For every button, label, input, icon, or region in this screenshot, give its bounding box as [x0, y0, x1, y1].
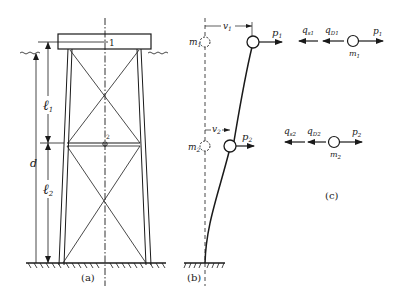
panel-c-label: (c) [325, 190, 339, 201]
mass-m2-fbd [329, 137, 340, 148]
m2-label-b: m2 [188, 142, 201, 153]
node-2-label: 2 [106, 133, 110, 140]
upper-brace-2 [68, 50, 139, 143]
lower-brace-2 [63, 146, 140, 263]
leg-right-inner [141, 49, 151, 265]
dim-l2-arrow-top [45, 143, 51, 150]
leg-left-outer [59, 49, 68, 265]
p1-label-c: p1 [373, 26, 382, 37]
p2-label-c: p2 [352, 127, 362, 138]
panel-c-free-body: qs1 qD1 m1 p1 qs2 qD2 m2 p2 (c) [284, 25, 383, 201]
mass-m2-undeformed [200, 141, 210, 151]
dim-d-label: d [30, 157, 37, 170]
mass-m1-displaced [247, 36, 259, 48]
p1-label-b: p1 [272, 27, 282, 39]
p2-label-b: p2 [242, 131, 252, 143]
panel-b-label: (b) [187, 272, 201, 283]
panel-a-label: (a) [81, 272, 95, 283]
m1-label-b: m1 [189, 37, 201, 48]
ground-hatching-b [184, 263, 224, 268]
dim-l2-arrow-bottom [45, 256, 51, 263]
leg-right-outer [137, 49, 146, 265]
water-line-left [20, 52, 40, 54]
structural-dynamics-figure: 1 2 [0, 0, 399, 286]
figure-canvas: 1 2 [0, 0, 399, 286]
deflected-shape [205, 47, 252, 263]
panel-b-lumped-model: m1 m2 v1 v2 p1 p2 (b) [184, 18, 282, 286]
dim-v2-arrow [224, 128, 230, 132]
dim-l1-arrow-bottom [45, 136, 51, 143]
free-body-m2: qs2 qD2 m2 p2 [284, 126, 362, 160]
upper-brace-1 [70, 50, 140, 143]
dim-v1-arrow [246, 24, 252, 28]
qd1-label: qD1 [325, 25, 339, 36]
mass-m2-displaced [224, 140, 236, 152]
qs1-label: qs1 [302, 25, 314, 36]
deck [58, 34, 151, 49]
m2-label-c: m2 [330, 150, 342, 160]
lower-brace-1 [67, 146, 146, 263]
qd2-label: qD2 [307, 126, 321, 137]
m1-label-c: m1 [349, 49, 360, 59]
panel-a-jacket-platform: 1 2 [20, 18, 168, 286]
water-line-right [148, 52, 168, 54]
leg-left-inner [64, 49, 72, 265]
ground-hatching-a [28, 263, 165, 268]
free-body-m1: qs1 qD1 m1 p1 [299, 25, 383, 59]
node-1-label: 1 [109, 38, 115, 48]
qs2-label: qs2 [284, 126, 297, 137]
mass-m1-fbd [348, 36, 359, 47]
dim-l1-arrow-top [45, 42, 51, 49]
mass-m1-undeformed [200, 37, 210, 47]
